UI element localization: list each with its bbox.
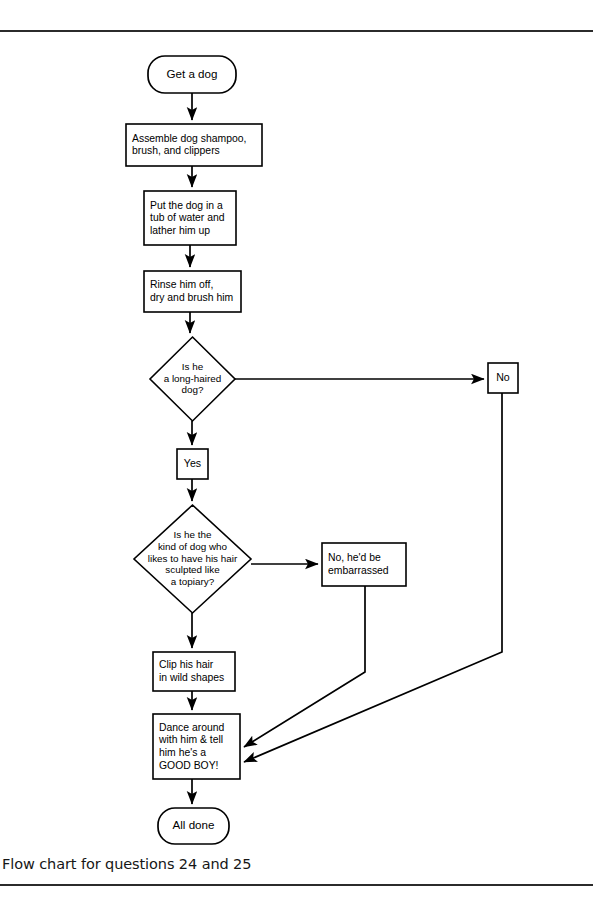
flowchart-page: Get a dogAssemble dog shampoo,brush, and…: [0, 0, 593, 907]
node-dance: Dance aroundwith him & tellhim he's aGOO…: [153, 714, 240, 779]
node-label-answer-yes: Yes: [184, 457, 201, 469]
node-label-answer-no: No: [496, 371, 510, 383]
node-answer-no: No: [488, 363, 518, 393]
node-label-line: likes to have his hair: [148, 553, 238, 564]
node-label-line: a long-haired: [164, 373, 222, 384]
node-label-line: Is he: [182, 361, 204, 372]
node-label-line: Put the dog in a: [150, 200, 223, 211]
node-label-line: tub of water and: [150, 212, 225, 223]
node-rinse: Rinse him off,dry and brush him: [144, 271, 241, 312]
node-end: All done: [158, 808, 229, 844]
node-label-line: GOOD BOY!: [159, 760, 218, 771]
node-label-line: with him & tell: [158, 734, 223, 745]
node-label-line: Get a dog: [167, 67, 218, 80]
node-label-answer-embarrassed: No, he'd beembarrassed: [328, 552, 389, 576]
node-label-line: Dance around: [159, 722, 224, 733]
node-start: Get a dog: [148, 56, 236, 93]
node-label-line: dog?: [182, 384, 204, 395]
node-label-line: him he's a: [159, 747, 206, 758]
node-label-line: embarrassed: [328, 565, 389, 576]
bottom-divider-rule: [0, 884, 593, 886]
node-label-line: kind of dog who: [158, 541, 228, 552]
nodes-group: Get a dogAssemble dog shampoo,brush, and…: [126, 56, 518, 844]
node-answer-embarrassed: No, he'd beembarrassed: [322, 543, 406, 586]
node-label-line: a topiary?: [171, 576, 215, 587]
node-label-line: No: [496, 371, 510, 383]
node-decision-topiary: Is he thekind of dog wholikes to have hi…: [134, 505, 251, 613]
node-label-line: No, he'd be: [328, 552, 381, 563]
node-label-line: sculpted like: [165, 564, 220, 575]
node-label-end: All done: [173, 818, 215, 831]
node-decision-longhair: Is hea long-haireddog?: [150, 337, 235, 421]
node-label-line: All done: [173, 818, 215, 831]
node-label-line: dry and brush him: [150, 292, 233, 303]
node-bathe: Put the dog in atub of water andlather h…: [144, 191, 236, 245]
node-label-line: in wild shapes: [159, 672, 224, 683]
node-label-line: brush, and clippers: [132, 145, 220, 156]
node-label-start: Get a dog: [167, 67, 218, 80]
node-label-line: Rinse him off,: [150, 279, 213, 290]
node-clip: Clip his hairin wild shapes: [153, 652, 235, 691]
flowchart-canvas: Get a dogAssemble dog shampoo,brush, and…: [0, 0, 593, 907]
node-label-line: Assemble dog shampoo,: [132, 133, 246, 144]
node-answer-yes: Yes: [177, 449, 208, 479]
node-label-line: Yes: [184, 457, 201, 469]
node-assemble: Assemble dog shampoo,brush, and clippers: [126, 124, 262, 166]
connectors-group: [190, 93, 502, 804]
node-label-line: Clip his hair: [159, 659, 214, 670]
figure-caption: Flow chart for questions 24 and 25: [2, 856, 251, 872]
connector-embarrassed-to-dance: [244, 586, 365, 747]
node-label-line: Is he the: [174, 529, 212, 540]
node-label-line: lather him up: [150, 225, 210, 236]
